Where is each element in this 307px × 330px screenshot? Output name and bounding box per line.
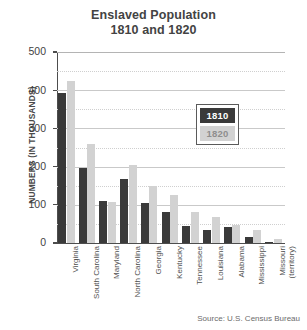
x-axis-label: Mississippi [257, 246, 266, 285]
bar-1810 [58, 93, 66, 243]
bar-1820 [253, 230, 261, 243]
bar-1810 [245, 237, 253, 243]
x-axis-label: South Carolina [92, 246, 101, 299]
y-tick-label-300: 300 [28, 122, 46, 134]
bar-1820 [232, 225, 240, 243]
bar-1810 [141, 203, 149, 243]
x-axis-labels: VirginiaSouth CarolinaMarylandNorth Caro… [57, 246, 285, 306]
bar-1810 [162, 212, 170, 243]
x-axis-label: Virginia [71, 246, 80, 273]
bar-group [264, 52, 285, 243]
bar-group [161, 52, 182, 243]
bar-1810 [120, 179, 128, 243]
bar-1810 [265, 242, 273, 243]
bar-group [140, 52, 161, 243]
bar-group [223, 52, 244, 243]
legend-item-1820: 1820 [200, 126, 235, 141]
bar-1820 [274, 239, 282, 243]
bar-1810 [224, 227, 232, 243]
bar-1820 [67, 81, 75, 243]
bar-1810 [99, 201, 107, 243]
bar-groups [57, 52, 285, 243]
bar-group [78, 52, 99, 243]
bar-1810 [182, 226, 190, 243]
x-axis-label: Georgia [154, 246, 163, 274]
bar-group [57, 52, 78, 243]
chart-title: Enslaved Population 1810 and 1820 [0, 8, 307, 38]
x-axis-label: Louisiana [216, 246, 225, 280]
bar-1810 [79, 168, 87, 243]
bar-group [244, 52, 265, 243]
x-axis-label: Tennessee [195, 246, 204, 285]
bar-group [98, 52, 119, 243]
bar-1810 [203, 230, 211, 243]
chart-title-line2: 1810 and 1820 [0, 23, 307, 38]
chart-title-line1: Enslaved Population [91, 8, 216, 22]
y-tick-label-200: 200 [28, 160, 46, 172]
bar-group [181, 52, 202, 243]
y-tick-label-100: 100 [28, 198, 46, 210]
y-tick-label-0: 0 [40, 236, 46, 248]
bar-group [202, 52, 223, 243]
bar-1820 [87, 144, 95, 243]
bar-1820 [191, 212, 199, 243]
bar-1820 [212, 217, 220, 243]
bar-1820 [170, 195, 178, 243]
x-axis-label-sub: (territory) [287, 246, 296, 278]
x-axis-label: Missouri(territory) [278, 246, 296, 278]
legend: 1810 1820 [196, 104, 239, 145]
x-axis-label: Kentucky [175, 246, 184, 279]
x-axis-label: Maryland [112, 246, 121, 279]
legend-label-1810: 1810 [207, 110, 229, 121]
bar-group [119, 52, 140, 243]
x-axis-label: North Carolina [133, 246, 142, 298]
x-axis-label: Alabama [237, 246, 246, 278]
y-tick-label-500: 500 [28, 45, 46, 57]
bar-1820 [129, 165, 137, 243]
x-axis-line [57, 243, 285, 244]
enslaved-population-chart: Enslaved Population 1810 and 1820 NUMBER… [0, 0, 307, 330]
plot-area: 0100200300400500 [57, 52, 285, 243]
bar-1820 [149, 186, 157, 243]
y-tick-label-400: 400 [28, 84, 46, 96]
legend-item-1810: 1810 [200, 108, 235, 123]
legend-label-1820: 1820 [207, 128, 229, 139]
source-note: Source: U.S. Census Bureau [197, 314, 300, 323]
bar-1820 [108, 202, 116, 243]
